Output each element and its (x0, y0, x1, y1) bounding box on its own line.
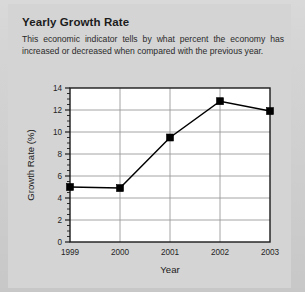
data-point-marker (167, 134, 174, 141)
y-tick-label: 12 (53, 106, 63, 115)
y-axis-ticks (65, 88, 70, 242)
x-tick-label: 2003 (261, 248, 280, 257)
y-tick-label: 2 (57, 216, 62, 225)
x-axis-title: Year (160, 264, 180, 275)
x-tick-label: 1999 (61, 248, 80, 257)
page-background: Yearly Growth Rate This economic indicat… (0, 0, 305, 292)
data-point-marker (117, 185, 124, 192)
chart-container: 02468101214 19992000200120022003 Growth … (8, 4, 291, 288)
data-point-marker (267, 108, 274, 115)
y-tick-label: 6 (57, 172, 62, 181)
y-tick-label: 8 (57, 150, 62, 159)
y-axis-title: Growth Rate (%) (25, 129, 36, 200)
y-axis-tick-labels: 02468101214 (53, 84, 63, 247)
figure-panel: Yearly Growth Rate This economic indicat… (8, 4, 291, 288)
data-point-marker (67, 184, 74, 191)
x-tick-label: 2001 (161, 248, 180, 257)
y-tick-label: 14 (53, 84, 63, 93)
y-tick-label: 10 (53, 128, 63, 137)
y-tick-label: 0 (57, 238, 62, 247)
x-tick-label: 2002 (211, 248, 230, 257)
y-tick-label: 4 (57, 194, 62, 203)
x-axis-tick-labels: 19992000200120022003 (61, 248, 280, 257)
data-point-marker (217, 98, 224, 105)
line-chart: 02468101214 19992000200120022003 Growth … (8, 4, 291, 288)
x-tick-label: 2000 (111, 248, 130, 257)
